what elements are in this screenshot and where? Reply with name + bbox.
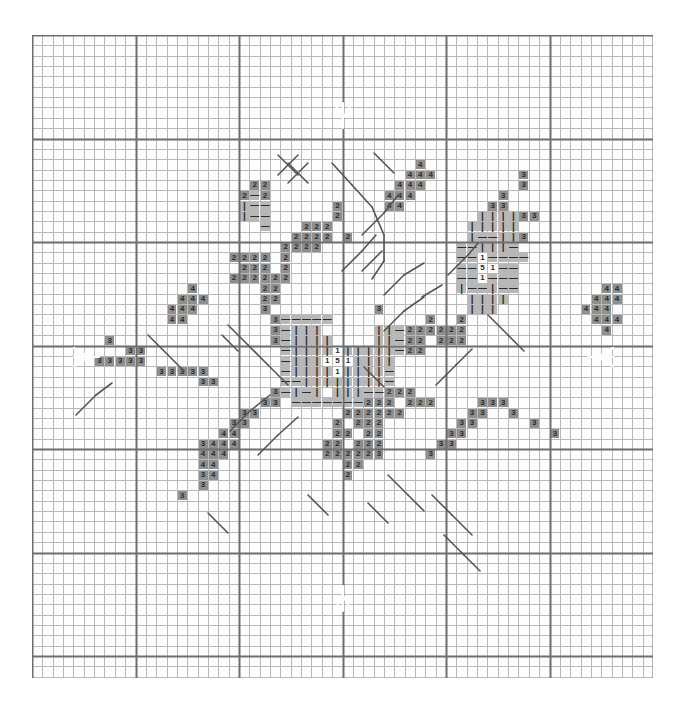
stitch-cell: — — [343, 398, 352, 407]
stitch-symbol: 3 — [553, 429, 557, 437]
stitch-symbol: | — [295, 366, 298, 376]
stitch-cell: 2 — [436, 326, 445, 335]
stitch-cell: 5 — [333, 357, 342, 366]
stitch-cell: 3 — [271, 315, 280, 324]
stitch-symbol: — — [468, 273, 477, 282]
stitch-cell: 3 — [126, 346, 135, 355]
stitch-symbol: 4 — [615, 315, 619, 323]
stitch-cell: 2 — [333, 419, 342, 428]
stitch-cell: — — [281, 315, 290, 324]
stitch-cell: — — [281, 388, 290, 397]
stitch-symbol: 2 — [377, 398, 381, 406]
stitch-symbol: 3 — [139, 357, 143, 365]
stitch-cell: 2 — [323, 439, 332, 448]
stitch-symbol: 4 — [397, 191, 401, 199]
stitch-cell: | — [509, 232, 518, 241]
stitch-cell: 3 — [105, 336, 114, 345]
stitch-symbol: 2 — [346, 408, 350, 416]
stitch-cell: 2 — [374, 419, 383, 428]
stitch-symbol: — — [395, 325, 404, 334]
stitch-symbol: 4 — [397, 201, 401, 209]
stitch-symbol: 3 — [439, 440, 443, 448]
stitch-symbol: 3 — [201, 471, 205, 479]
stitch-cell: 2 — [271, 295, 280, 304]
stitch-symbol: 4 — [180, 315, 184, 323]
stitch-symbol: 4 — [584, 305, 588, 313]
stitch-symbol: 2 — [408, 398, 412, 406]
stitch-symbol: — — [499, 263, 508, 272]
stitch-cell: 2 — [343, 408, 352, 417]
stitch-cell: 4 — [167, 305, 176, 314]
stitch-cell: — — [499, 264, 508, 273]
stitch-symbol: | — [243, 211, 246, 221]
stitch-symbol: — — [385, 367, 394, 376]
stitch-cell: 4 — [416, 170, 425, 179]
stitch-symbol: 2 — [356, 440, 360, 448]
stitch-cell: — — [302, 398, 311, 407]
stitch-symbol: 2 — [366, 440, 370, 448]
stitch-symbol: 3 — [501, 191, 505, 199]
stitch-cell: 4 — [602, 305, 611, 314]
stitch-symbol: 3 — [242, 419, 246, 427]
stitch-symbol: 3 — [273, 315, 277, 323]
stitch-symbol: 3 — [480, 408, 484, 416]
stitch-symbol: 2 — [428, 315, 432, 323]
stitch-cell: — — [281, 346, 290, 355]
stitch-cell: 2 — [281, 243, 290, 252]
stitch-symbol: 1 — [335, 346, 339, 354]
stitch-symbol: 2 — [428, 326, 432, 334]
stitch-cell: 2 — [385, 398, 394, 407]
stitch-cell: 3 — [157, 367, 166, 376]
stitch-cells-layer: 4444344432244432—244233|——||||2|——33||||… — [32, 35, 653, 678]
stitch-symbol: 3 — [108, 357, 112, 365]
stitch-symbol: — — [509, 273, 518, 282]
stitch-cell: 3 — [198, 481, 207, 490]
stitch-symbol: 4 — [408, 170, 412, 178]
stitch-symbol: 1 — [335, 367, 339, 375]
stitch-symbol: 2 — [284, 274, 288, 282]
stitch-cell: 2 — [343, 429, 352, 438]
stitch-symbol: 4 — [180, 295, 184, 303]
stitch-symbol: 3 — [377, 305, 381, 313]
stitch-cell: 2 — [457, 326, 466, 335]
stitch-cell: | — [488, 305, 497, 314]
stitch-symbol: — — [499, 284, 508, 293]
stitch-cell: 2 — [416, 398, 425, 407]
stitch-symbol: 4 — [615, 284, 619, 292]
stitch-symbol: — — [281, 356, 290, 365]
stitch-symbol: 2 — [408, 346, 412, 354]
stitch-cell: | — [302, 377, 311, 386]
stitch-symbol: 3 — [170, 367, 174, 375]
stitch-symbol: 4 — [408, 191, 412, 199]
stitch-symbol: — — [281, 325, 290, 334]
stitch-symbol: 3 — [459, 429, 463, 437]
stitch-cell: 2 — [229, 274, 238, 283]
stitch-symbol: 2 — [418, 346, 422, 354]
stitch-cell: — — [519, 253, 528, 262]
stitch-symbol: 2 — [242, 274, 246, 282]
stitch-cell: 2 — [374, 408, 383, 417]
stitch-cell: 4 — [395, 191, 404, 200]
stitch-cell: — — [354, 398, 363, 407]
stitch-symbol: — — [312, 315, 321, 324]
stitch-symbol: 4 — [604, 284, 608, 292]
stitch-cell: 2 — [343, 232, 352, 241]
stitch-symbol: — — [250, 191, 259, 200]
stitch-cell: 2 — [405, 326, 414, 335]
stitch-cell: 2 — [354, 419, 363, 428]
stitch-cell: — — [395, 346, 404, 355]
stitch-cell: 4 — [385, 191, 394, 200]
stitch-cell: 2 — [457, 315, 466, 324]
stitch-symbol: 2 — [263, 191, 267, 199]
stitch-cell: 3 — [178, 367, 187, 376]
stitch-symbol: 2 — [304, 243, 308, 251]
stitch-symbol: 1 — [325, 357, 329, 365]
stitch-cell: 2 — [354, 450, 363, 459]
stitch-cell: 3 — [198, 471, 207, 480]
stitch-symbol: 4 — [428, 170, 432, 178]
stitch-symbol: | — [326, 376, 329, 386]
stitch-symbol: 4 — [232, 440, 236, 448]
stitch-cell: 4 — [198, 295, 207, 304]
stitch-symbol: 4 — [418, 170, 422, 178]
stitch-symbol: 2 — [397, 388, 401, 396]
